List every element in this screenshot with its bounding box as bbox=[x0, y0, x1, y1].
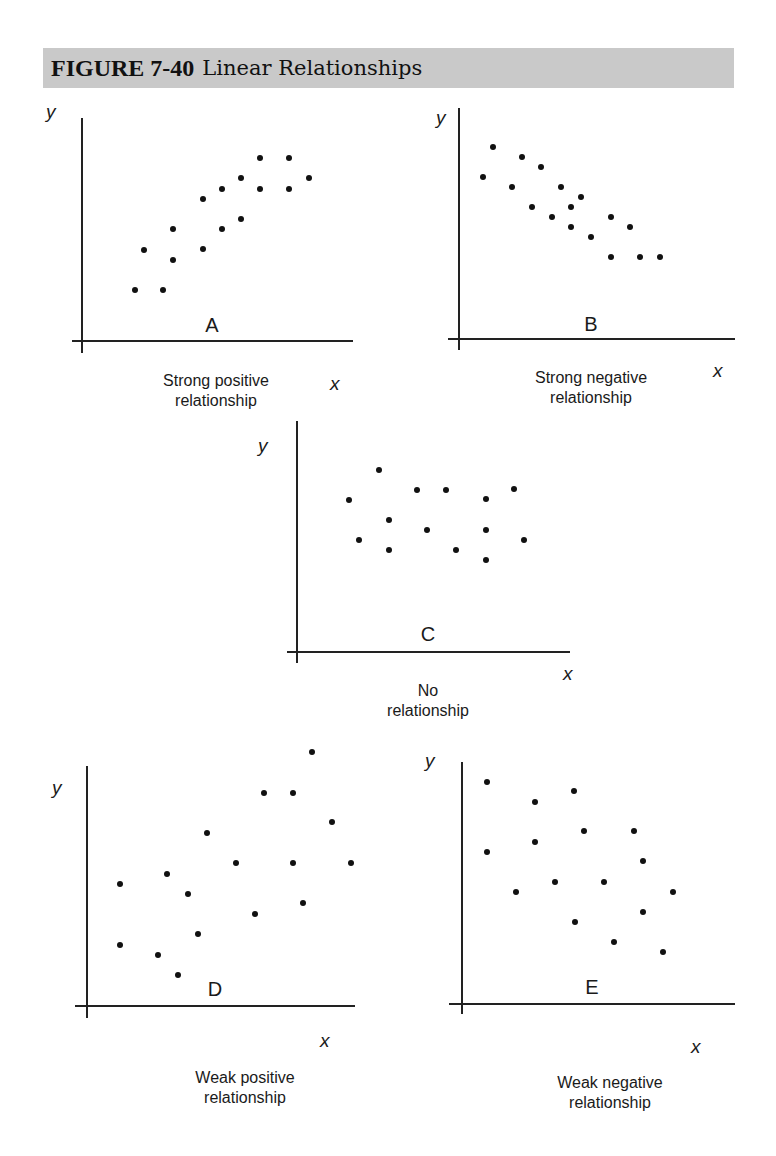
data-point bbox=[571, 788, 577, 794]
data-point bbox=[233, 860, 239, 866]
data-point bbox=[424, 527, 430, 533]
panel-letter: B bbox=[584, 313, 597, 335]
data-point bbox=[117, 942, 123, 948]
data-point bbox=[309, 749, 315, 755]
data-point bbox=[386, 547, 392, 553]
data-point bbox=[219, 226, 225, 232]
data-point bbox=[306, 175, 312, 181]
scatter-panel-d: yxDWeak positiverelationship bbox=[50, 749, 355, 1106]
panel-caption-line: relationship bbox=[175, 392, 257, 409]
data-point bbox=[552, 879, 558, 885]
data-point bbox=[117, 881, 123, 887]
panel-caption-line: Weak positive bbox=[195, 1069, 294, 1086]
data-point bbox=[588, 234, 594, 240]
data-point bbox=[257, 186, 263, 192]
data-point bbox=[160, 287, 166, 293]
data-point bbox=[572, 919, 578, 925]
data-point bbox=[483, 496, 489, 502]
data-point bbox=[608, 214, 614, 220]
data-point bbox=[532, 799, 538, 805]
data-point bbox=[568, 204, 574, 210]
data-point bbox=[549, 214, 555, 220]
data-point bbox=[521, 537, 527, 543]
data-point bbox=[483, 527, 489, 533]
panel-caption-line: Strong positive bbox=[163, 372, 269, 389]
data-point bbox=[519, 154, 525, 160]
x-axis-label: x bbox=[690, 1036, 702, 1057]
data-point bbox=[660, 949, 666, 955]
data-point bbox=[558, 184, 564, 190]
data-point bbox=[200, 246, 206, 252]
data-point bbox=[204, 830, 210, 836]
scatter-panel-b: yxBStrong negativerelationship bbox=[434, 107, 735, 406]
panel-caption-line: relationship bbox=[550, 389, 632, 406]
x-axis-label: x bbox=[712, 360, 724, 381]
scatter-panel-c: yxCNorelationship bbox=[256, 421, 574, 719]
data-point bbox=[529, 204, 535, 210]
data-point bbox=[219, 186, 225, 192]
panel-caption-line: relationship bbox=[204, 1089, 286, 1106]
scatter-plots-figure: yxAStrong positiverelationshipyxBStrong … bbox=[0, 0, 776, 1156]
data-point bbox=[257, 155, 263, 161]
data-point bbox=[238, 175, 244, 181]
y-axis-label: y bbox=[423, 750, 436, 771]
data-point bbox=[286, 186, 292, 192]
data-point bbox=[185, 891, 191, 897]
panel-caption-line: relationship bbox=[387, 702, 469, 719]
data-point bbox=[261, 790, 267, 796]
data-point bbox=[509, 184, 515, 190]
data-point bbox=[490, 144, 496, 150]
data-point bbox=[484, 849, 490, 855]
data-point bbox=[290, 860, 296, 866]
data-point bbox=[637, 254, 643, 260]
scatter-panel-e: yxEWeak negativerelationship bbox=[423, 750, 735, 1111]
panel-caption-line: No bbox=[418, 682, 439, 699]
data-point bbox=[376, 467, 382, 473]
data-point bbox=[346, 497, 352, 503]
data-point bbox=[386, 517, 392, 523]
data-point bbox=[480, 174, 486, 180]
panel-letter: D bbox=[208, 978, 222, 1000]
data-point bbox=[538, 164, 544, 170]
data-point bbox=[132, 287, 138, 293]
panel-caption-line: Strong negative bbox=[535, 369, 647, 386]
data-point bbox=[200, 196, 206, 202]
data-point bbox=[290, 790, 296, 796]
data-point bbox=[483, 557, 489, 563]
data-point bbox=[657, 254, 663, 260]
data-point bbox=[627, 224, 633, 230]
y-axis-label: y bbox=[50, 777, 63, 798]
panel-letter: E bbox=[585, 976, 598, 998]
x-axis-label: x bbox=[329, 373, 341, 394]
x-axis-label: x bbox=[319, 1030, 331, 1051]
data-point bbox=[141, 247, 147, 253]
panel-caption-line: relationship bbox=[569, 1094, 651, 1111]
data-point bbox=[175, 972, 181, 978]
data-point bbox=[443, 487, 449, 493]
y-axis-label: y bbox=[256, 435, 269, 456]
panel-letter: A bbox=[205, 314, 219, 336]
data-point bbox=[414, 487, 420, 493]
data-point bbox=[155, 952, 161, 958]
data-point bbox=[300, 900, 306, 906]
data-point bbox=[484, 779, 490, 785]
data-point bbox=[640, 858, 646, 864]
data-point bbox=[513, 889, 519, 895]
data-point bbox=[608, 254, 614, 260]
data-point bbox=[511, 486, 517, 492]
data-point bbox=[631, 828, 637, 834]
y-axis-label: y bbox=[434, 107, 447, 128]
data-point bbox=[611, 939, 617, 945]
data-point bbox=[286, 155, 292, 161]
data-point bbox=[670, 889, 676, 895]
data-point bbox=[532, 839, 538, 845]
data-point bbox=[568, 224, 574, 230]
data-point bbox=[356, 537, 362, 543]
data-point bbox=[170, 226, 176, 232]
data-point bbox=[195, 931, 201, 937]
data-point bbox=[238, 216, 244, 222]
panel-letter: C bbox=[421, 623, 435, 645]
y-axis-label: y bbox=[44, 101, 57, 122]
panel-caption-line: Weak negative bbox=[557, 1074, 663, 1091]
data-point bbox=[170, 257, 176, 263]
